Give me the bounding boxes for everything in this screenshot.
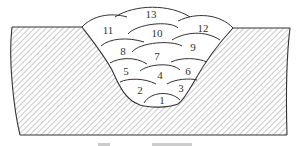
bead-label-1: 1 (159, 94, 165, 106)
bead-label-4: 4 (157, 69, 163, 81)
bead-label-5: 5 (123, 65, 129, 77)
weld-bead-diagram: 1 2 3 4 5 6 7 8 9 10 11 12 13 (0, 0, 297, 146)
bead-label-11: 11 (103, 24, 114, 36)
bead-label-3: 3 (178, 82, 184, 94)
caption-fragment (98, 143, 192, 146)
bead-label-6: 6 (185, 65, 191, 77)
bead-label-10: 10 (152, 27, 164, 39)
bead-label-7: 7 (154, 50, 160, 62)
bead-label-8: 8 (120, 45, 126, 57)
bead-label-9: 9 (190, 41, 196, 53)
bead-label-13: 13 (146, 8, 158, 20)
bead-label-12: 12 (198, 22, 209, 34)
bead-label-2: 2 (137, 84, 143, 96)
left-base-plate (11, 27, 160, 135)
